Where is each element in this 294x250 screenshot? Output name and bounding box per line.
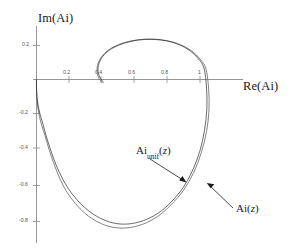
figure-root: Im(Ai) Re(Ai) 0.2 0.4 0.6 0.8 1 0.2 -0.2… bbox=[0, 0, 294, 250]
annotation-unif-close-paren: ) bbox=[167, 144, 171, 156]
y-tick-label--0.8: -0.8 bbox=[19, 218, 28, 223]
curve-ai-uniform bbox=[36, 39, 207, 224]
arrowhead-unif bbox=[179, 176, 186, 183]
annotation-unif-subscript: unif bbox=[147, 152, 159, 161]
annotation-unif-base: Ai bbox=[136, 144, 147, 156]
x-tick-label-0.2: 0.2 bbox=[63, 70, 70, 75]
leader-line-exact bbox=[209, 185, 234, 209]
y-tick-label--0.2: -0.2 bbox=[19, 110, 28, 115]
y-tick-label-0.2: 0.2 bbox=[22, 42, 29, 47]
annotation-exact-close-paren: ) bbox=[255, 202, 259, 214]
curve-annotation-exact: Ai(z) bbox=[236, 203, 259, 214]
x-tick-label-1: 1 bbox=[198, 70, 201, 75]
annotation-exact-base: Ai bbox=[236, 202, 247, 214]
x-tick-label-0.8: 0.8 bbox=[161, 70, 168, 75]
y-axis-title: Im(Ai) bbox=[38, 12, 73, 25]
y-tick-label--0.4: -0.4 bbox=[19, 145, 28, 150]
x-tick-label-0.6: 0.6 bbox=[128, 70, 135, 75]
curve-ai-exact bbox=[36, 39, 209, 228]
x-axis-title: Re(Ai) bbox=[243, 80, 278, 93]
curve-annotation-uniform: Aiunif(z) bbox=[136, 145, 171, 159]
y-tick-label--0.6: -0.6 bbox=[19, 182, 28, 187]
x-tick-label-0.4: 0.4 bbox=[95, 70, 102, 75]
leader-line-unif bbox=[150, 159, 185, 181]
arrowhead-exact bbox=[207, 183, 215, 188]
